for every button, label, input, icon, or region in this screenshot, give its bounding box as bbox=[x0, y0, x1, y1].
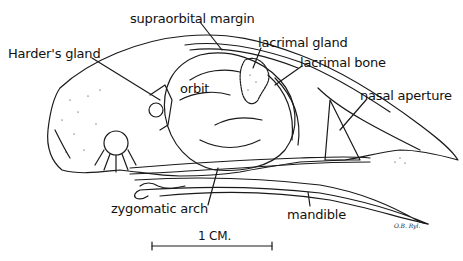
label-harders-gland: Harder's gland bbox=[8, 47, 100, 60]
nasal-aperture-shape bbox=[325, 100, 360, 160]
leader-nasal-aperture bbox=[340, 100, 366, 130]
label-lacrimal-bone: lacrimal bone bbox=[300, 56, 386, 69]
label-mandible: mandible bbox=[287, 208, 346, 221]
leader-supraorbital bbox=[200, 22, 222, 50]
label-zygomatic-arch: zygomatic arch bbox=[111, 202, 208, 215]
leader-lacrimal-bone bbox=[275, 66, 302, 85]
skull-diagram: supraorbital margin Harder's gland lacri… bbox=[0, 0, 463, 261]
label-supraorbital-margin: supraorbital margin bbox=[130, 12, 255, 25]
leader-harders bbox=[92, 58, 160, 100]
label-lacrimal-gland: lacrimal gland bbox=[258, 36, 348, 49]
scale-bar-label: 1 CM. bbox=[198, 230, 231, 242]
leader-mandible bbox=[308, 192, 310, 206]
scale-bar-line bbox=[152, 242, 272, 250]
label-nasal-aperture: nasal aperture bbox=[360, 89, 452, 102]
leader-zygomatic bbox=[208, 168, 218, 205]
label-orbit: orbit bbox=[180, 82, 209, 95]
artist-signature: O.B. Ryl. bbox=[394, 222, 420, 229]
